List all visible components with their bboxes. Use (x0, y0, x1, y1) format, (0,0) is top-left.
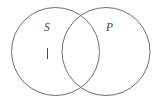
venn-circles-graphic (0, 0, 165, 104)
circle-s-label: S (44, 22, 50, 34)
venn-diagram-figure: S P (0, 0, 165, 104)
individual-tick-mark (47, 48, 48, 59)
circle-p-label: P (106, 22, 113, 34)
circle-s (12, 8, 100, 96)
